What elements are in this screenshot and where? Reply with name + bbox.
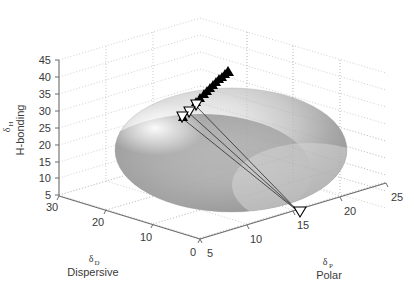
z-tick-15: 15 (39, 156, 51, 168)
chart-3d-plot: 45 40 35 30 25 20 15 10 5 30 20 10 0 5 1… (0, 0, 414, 299)
x-axis-title: δ D Dispersive (67, 253, 118, 278)
marker-open-triangle (294, 207, 306, 217)
figure-canvas: 45 40 35 30 25 20 15 10 5 30 20 10 0 5 1… (0, 0, 414, 299)
z-tick-45: 45 (39, 54, 51, 66)
z-tick-25: 25 (39, 122, 51, 134)
y-tick-10: 10 (250, 233, 262, 245)
x-tick-0: 0 (190, 246, 196, 258)
x-tick-20: 20 (92, 216, 104, 228)
z-axis-ticks (55, 60, 59, 195)
z-axis-symbol: δ (1, 127, 12, 132)
z-axis-title: δ H H-bonding (1, 105, 26, 156)
y-tick-5: 5 (207, 247, 213, 259)
x-axis-symbol: δ (89, 253, 94, 264)
z-tick-20: 20 (39, 139, 51, 151)
marker-filled-triangle (222, 66, 234, 76)
x-tick-30: 30 (46, 201, 58, 213)
y-tick-15: 15 (297, 219, 309, 231)
z-tick-35: 35 (39, 88, 51, 100)
z-tick-10: 10 (39, 172, 51, 184)
z-axis-label: H-bonding (14, 105, 26, 156)
y-axis-label: Polar (316, 269, 342, 281)
x-tick-10: 10 (140, 231, 152, 243)
z-tick-30: 30 (39, 105, 51, 117)
y-axis-symbol: δ (323, 256, 328, 267)
y-tick-20: 20 (344, 205, 356, 217)
y-axis-title: δ P Polar (316, 256, 342, 281)
z-tick-5: 5 (45, 189, 51, 201)
x-axis-ticklabels: 30 20 10 0 (46, 201, 196, 258)
x-axis-label: Dispersive (67, 266, 118, 278)
y-tick-25: 25 (391, 191, 403, 203)
z-axis-ticklabels: 45 40 35 30 25 20 15 10 5 (39, 54, 51, 201)
z-tick-40: 40 (39, 71, 51, 83)
